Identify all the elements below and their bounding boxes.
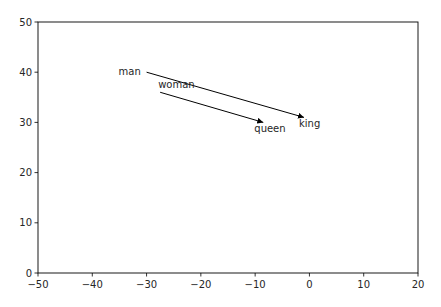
plot-area	[38, 22, 418, 273]
x-axis: −50−40−30−20−1001020	[27, 273, 424, 290]
x-tick-label: −40	[82, 279, 103, 290]
x-tick-label: −30	[136, 279, 157, 290]
x-tick-label: 20	[412, 279, 425, 290]
x-tick-label: −10	[245, 279, 266, 290]
y-tick-label: 10	[19, 217, 32, 228]
y-tick-label: 40	[19, 67, 32, 78]
y-tick-label: 30	[19, 117, 32, 128]
x-tick-label: −50	[27, 279, 48, 290]
x-tick-label: 10	[357, 279, 370, 290]
y-tick-label: 50	[19, 17, 32, 28]
label-woman: woman	[158, 79, 195, 90]
x-tick-label: −20	[190, 279, 211, 290]
label-king: king	[299, 118, 320, 129]
y-tick-label: 0	[26, 268, 32, 279]
label-man: man	[119, 66, 141, 77]
word-analogy-chart: −50−40−30−20−1001020 01020304050 manwoma…	[0, 0, 441, 307]
label-queen: queen	[254, 123, 285, 134]
y-axis: 01020304050	[19, 17, 38, 279]
x-tick-label: 0	[306, 279, 312, 290]
y-tick-label: 20	[19, 167, 32, 178]
